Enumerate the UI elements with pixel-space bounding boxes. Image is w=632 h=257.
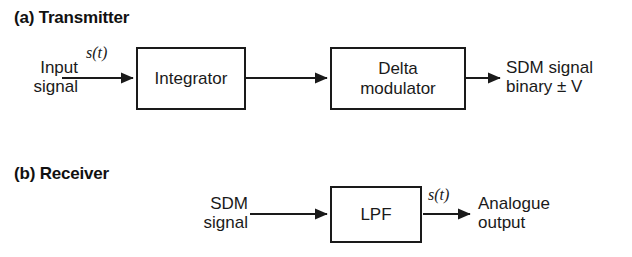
receiver-output-signal-label: s(t) bbox=[428, 186, 449, 204]
figure-canvas: (a) Transmitter Input signal s(t) Integr… bbox=[0, 0, 632, 257]
block-lpf[interactable]: LPF bbox=[330, 186, 422, 243]
receiver-output-label: Analogue output bbox=[478, 194, 618, 232]
transmitter-input-signal-label: s(t) bbox=[86, 44, 107, 62]
receiver-heading: (b) Receiver bbox=[14, 164, 109, 184]
block-integrator[interactable]: Integrator bbox=[136, 47, 246, 110]
block-delta-modulator[interactable]: Delta modulator bbox=[330, 47, 466, 110]
transmitter-heading: (a) Transmitter bbox=[14, 8, 129, 28]
transmitter-input-label: Input signal bbox=[6, 58, 78, 96]
transmitter-output-label: SDM signal binary ± V bbox=[506, 58, 628, 96]
receiver-input-label: SDM signal bbox=[186, 194, 248, 232]
